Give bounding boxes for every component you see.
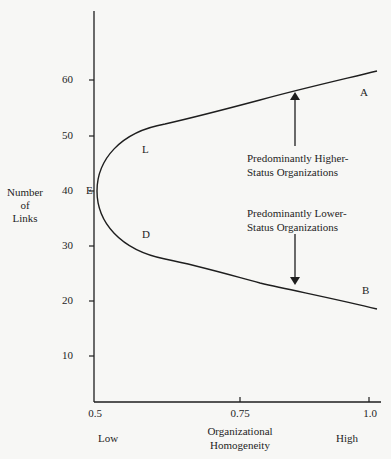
- y-ticks: [89, 80, 94, 356]
- x-axis-high-label: High: [336, 432, 358, 445]
- y-tick-10: 10: [62, 349, 73, 362]
- point-label-B: B: [362, 284, 369, 297]
- x-axis-label-line2: Homogeneity: [190, 439, 290, 452]
- y-tick-20: 20: [62, 294, 73, 307]
- x-tick-1-0: 1.0: [355, 407, 385, 420]
- lower-status-annotation-line1: Predominantly Lower-: [247, 207, 347, 220]
- y-tick-40: 40: [62, 184, 73, 197]
- y-axis-label-line3: Links: [0, 212, 50, 225]
- y-axis-label-line1: Number: [0, 186, 50, 199]
- point-label-E: E: [86, 184, 93, 197]
- x-tick-0-5: 0.5: [80, 407, 110, 420]
- x-axis-label-line1: Organizational: [190, 425, 290, 438]
- y-tick-50: 50: [62, 129, 73, 142]
- lower-status-annotation-line2: Status Organizations: [247, 221, 338, 234]
- x-tick-0-75: 0.75: [225, 407, 255, 420]
- y-tick-60: 60: [62, 73, 73, 86]
- higher-status-annotation-line1: Predominantly Higher-: [247, 152, 349, 165]
- x-ticks: [240, 397, 369, 402]
- higher-status-annotation-line2: Status Organizations: [247, 166, 338, 179]
- point-label-L: L: [142, 143, 149, 156]
- x-axis-low-label: Low: [98, 432, 118, 445]
- y-tick-30: 30: [62, 239, 73, 252]
- point-label-D: D: [142, 228, 150, 241]
- point-label-A: A: [360, 86, 368, 99]
- y-axis-label-line2: of: [0, 199, 50, 212]
